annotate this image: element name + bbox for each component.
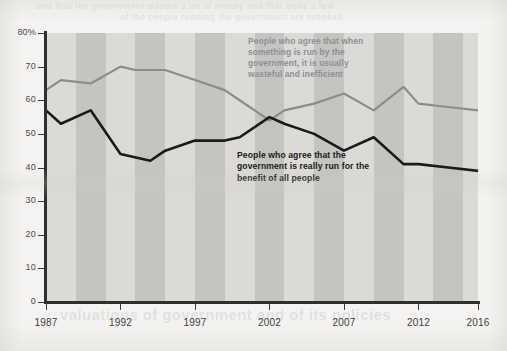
x-axis-label: 2007: [332, 317, 355, 328]
x-axis-tick: [418, 304, 419, 310]
x-axis-label: 1987: [34, 317, 57, 328]
x-axis-tick: [269, 304, 270, 310]
ghost-text-top-1: and that the government wastes a lot of …: [36, 1, 334, 11]
y-axis-label: 70: [0, 61, 36, 71]
x-axis-tick: [195, 304, 196, 310]
ghost-text-top-2: of the people running the government are…: [120, 12, 346, 22]
y-axis-tick: [38, 134, 44, 135]
y-axis-label: 60: [0, 94, 36, 104]
x-axis-tick: [478, 304, 479, 310]
y-axis-tick: [38, 268, 44, 269]
y-axis-tick: [38, 33, 44, 34]
y-axis-tick: [38, 201, 44, 202]
y-axis-label: 20: [0, 229, 36, 239]
y-axis-label: 30: [0, 195, 36, 205]
x-axis-tick: [120, 304, 121, 310]
y-axis-label: 40: [0, 162, 36, 172]
x-axis-tick: [344, 304, 345, 310]
chart-page: and that the government wastes a lot of …: [0, 0, 507, 351]
y-axis-tick: [38, 168, 44, 169]
y-axis-tick: [38, 67, 44, 68]
x-axis-label: 2002: [258, 317, 281, 328]
y-axis-tick: [38, 302, 44, 303]
annotation-benefit-of-all: People who agree that the government is …: [237, 150, 385, 184]
x-axis-tick: [46, 304, 47, 310]
annotation-wasteful-inefficient: People who agree that when something is …: [248, 36, 380, 80]
y-axis-tick: [38, 235, 44, 236]
y-axis-line: [44, 31, 47, 304]
y-axis-label: 50: [0, 128, 36, 138]
y-axis-label: 10: [0, 262, 36, 272]
x-axis-label: 1997: [183, 317, 206, 328]
y-axis-label: 80%: [0, 27, 36, 37]
y-axis-tick: [38, 100, 44, 101]
x-axis-label: 1992: [109, 317, 132, 328]
x-axis-label: 2016: [466, 317, 489, 328]
x-axis-line: [44, 301, 480, 304]
y-axis-label: 0: [0, 296, 36, 306]
x-axis-label: 2012: [407, 317, 430, 328]
